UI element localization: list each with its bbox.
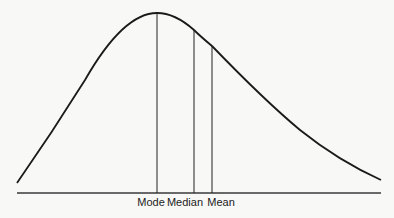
distribution-diagram <box>0 0 394 218</box>
median-label: Median <box>167 196 203 208</box>
mean-label: Mean <box>207 196 235 208</box>
distribution-curve <box>17 13 381 183</box>
mode-label: Mode <box>137 196 165 208</box>
